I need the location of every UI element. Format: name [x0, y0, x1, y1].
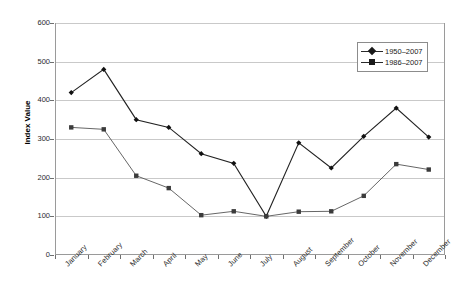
gridline [56, 178, 444, 179]
legend-marker-square-icon [361, 57, 383, 68]
legend: 1950–2007 1986–2007 [357, 42, 428, 72]
legend-marker-diamond-icon [361, 46, 383, 57]
x-tick-mark [55, 255, 56, 259]
x-tick-mark [413, 255, 414, 259]
y-tick-label: 0 [4, 251, 50, 259]
y-tick-label: 500 [4, 58, 50, 66]
x-tick-mark [283, 255, 284, 259]
legend-item: 1986–2007 [361, 57, 423, 68]
x-tick-mark [445, 255, 446, 259]
y-tick-mark [50, 62, 54, 63]
x-tick-mark [315, 255, 316, 259]
y-tick-label: 100 [4, 212, 50, 220]
gridline [56, 100, 444, 101]
y-tick-mark [50, 216, 54, 217]
x-tick-mark [250, 255, 251, 259]
gridline [56, 23, 444, 24]
chart-container: 0100200300400500600 Index Value JanuaryF… [0, 0, 451, 307]
legend-item-label: 1986–2007 [383, 58, 423, 67]
y-tick-mark [50, 100, 54, 101]
x-tick-mark [380, 255, 381, 259]
y-tick-label: 600 [4, 19, 50, 27]
y-axis-title: Index Value [23, 78, 32, 168]
y-tick-label: 200 [4, 174, 50, 182]
gridline [56, 139, 444, 140]
legend-item: 1950–2007 [361, 46, 423, 57]
x-tick-mark [153, 255, 154, 259]
x-tick-mark [185, 255, 186, 259]
gridline [56, 216, 444, 217]
y-tick-mark [50, 139, 54, 140]
y-tick-mark [50, 255, 54, 256]
x-tick-mark [218, 255, 219, 259]
x-tick-mark [120, 255, 121, 259]
y-tick-mark [50, 23, 54, 24]
legend-item-label: 1950–2007 [383, 47, 423, 56]
y-tick-mark [50, 178, 54, 179]
x-tick-mark [348, 255, 349, 259]
x-tick-mark [88, 255, 89, 259]
